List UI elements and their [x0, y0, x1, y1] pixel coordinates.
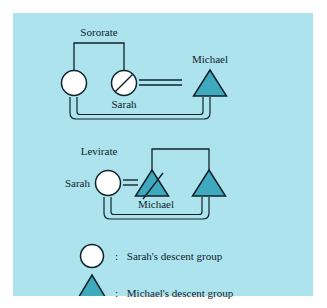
legend-item-triangle-text: : Michael's descent group — [115, 288, 233, 299]
levirate-sarah-node — [96, 171, 121, 196]
legend-item-circle-text: : Sarah's descent group — [115, 251, 222, 262]
levirate-marriage-link — [123, 180, 138, 185]
levirate-sarah-label: Sarah — [65, 178, 90, 189]
sororate-michael-node — [194, 70, 227, 96]
sororate-descent-bracket — [70, 97, 210, 119]
levirate-michael-label: Michael — [138, 199, 174, 210]
sororate-marriage-link — [139, 80, 182, 85]
legend-symbols — [77, 245, 107, 297]
legend-label-michael: Michael's descent group — [121, 287, 233, 299]
sororate-sarah-label: Sarah — [111, 99, 136, 110]
levirate-michael-node — [136, 170, 169, 199]
sororate-sarah-node — [112, 71, 137, 96]
legend-triangle-icon — [77, 275, 107, 296]
levirate-sibling-bar — [152, 149, 209, 171]
levirate-brother-node — [193, 170, 226, 196]
legend-circle-icon — [81, 245, 104, 268]
sororate-michael-label: Michael — [192, 54, 228, 65]
legend-separator: : — [115, 250, 118, 262]
legend-label-sarah: Sarah's descent group — [121, 250, 222, 262]
levirate-title: Levirate — [81, 146, 118, 157]
diagram-panel: Sororate Sarah Michael Levirate Sarah Mi… — [13, 13, 313, 296]
sororate-sister-living-node — [62, 71, 87, 96]
sororate-title: Sororate — [80, 27, 117, 38]
figure-root: Sororate Sarah Michael Levirate Sarah Mi… — [0, 0, 327, 308]
legend-separator: : — [115, 287, 118, 299]
sororate-sibling-bar — [74, 43, 124, 71]
